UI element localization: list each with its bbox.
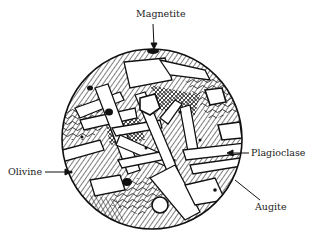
label-olivine: Olivine bbox=[8, 167, 42, 177]
label-plagioclase: Plagioclase bbox=[251, 148, 305, 158]
label-magnetite: Magnetite bbox=[136, 9, 186, 19]
groundmass bbox=[60, 45, 250, 235]
label-augite: Augite bbox=[255, 202, 287, 212]
